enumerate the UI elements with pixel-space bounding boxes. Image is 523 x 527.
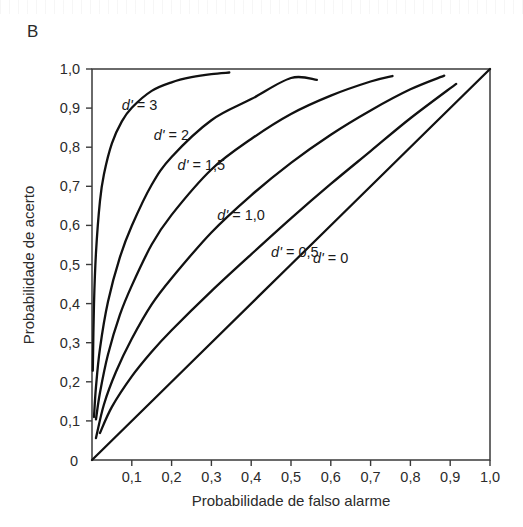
roc-curve	[92, 69, 490, 460]
x-tick-label: 0,7	[361, 469, 381, 485]
y-axis-tick-labels: 0,10,20,30,40,50,60,70,80,91,0	[60, 61, 80, 429]
roc-curve	[93, 73, 230, 371]
x-tick-label: 0,1	[122, 469, 142, 485]
y-axis-ticks	[86, 69, 92, 421]
roc-figure: B 00,10,20,30,40,50,60,70,80,91,0 0,10,2…	[0, 0, 523, 527]
curve-label: d' = 3	[122, 97, 157, 113]
y-tick-label: 0,7	[60, 178, 80, 194]
y-tick-label: 0,4	[60, 296, 80, 312]
y-tick-label: 0,9	[60, 100, 80, 116]
roc-chart: 00,10,20,30,40,50,60,70,80,91,0 0,10,20,…	[0, 0, 523, 527]
y-tick-label: 0,2	[60, 374, 80, 390]
x-tick-label: 0,9	[440, 469, 460, 485]
y-tick-label: 1,0	[60, 61, 80, 77]
y-tick-label: 0,6	[60, 217, 80, 233]
y-axis-title: Probabilidade de acerto	[20, 186, 37, 344]
curve-label: d' = 1,0	[217, 207, 265, 223]
x-tick-label: 0,5	[281, 469, 301, 485]
x-tick-label: 0,2	[162, 469, 182, 485]
y-tick-label: 0,3	[60, 335, 80, 351]
roc-curve	[96, 76, 444, 438]
y-tick-label: 0,5	[60, 257, 80, 273]
x-tick-label: 0,8	[400, 469, 420, 485]
x-tick-label: 1,0	[480, 469, 500, 485]
curve-label: d' = 0	[313, 250, 348, 266]
roc-curve	[96, 76, 393, 419]
x-axis-title: Probabilidade de falso alarme	[192, 492, 390, 509]
x-tick-label: 0,6	[321, 469, 341, 485]
x-tick-label: 0	[70, 453, 78, 469]
roc-curve-group	[92, 69, 490, 460]
x-axis-ticks	[132, 460, 490, 466]
x-tick-label: 0,4	[241, 469, 261, 485]
curve-label: d' = 0,5	[271, 244, 319, 260]
curve-label: d' = 1,5	[178, 157, 226, 173]
x-axis-tick-labels: 00,10,20,30,40,50,60,70,80,91,0	[70, 453, 500, 485]
y-tick-label: 0,1	[60, 413, 80, 429]
y-tick-label: 0,8	[60, 139, 80, 155]
x-tick-label: 0,3	[201, 469, 221, 485]
curve-label: d' = 2	[154, 127, 189, 143]
